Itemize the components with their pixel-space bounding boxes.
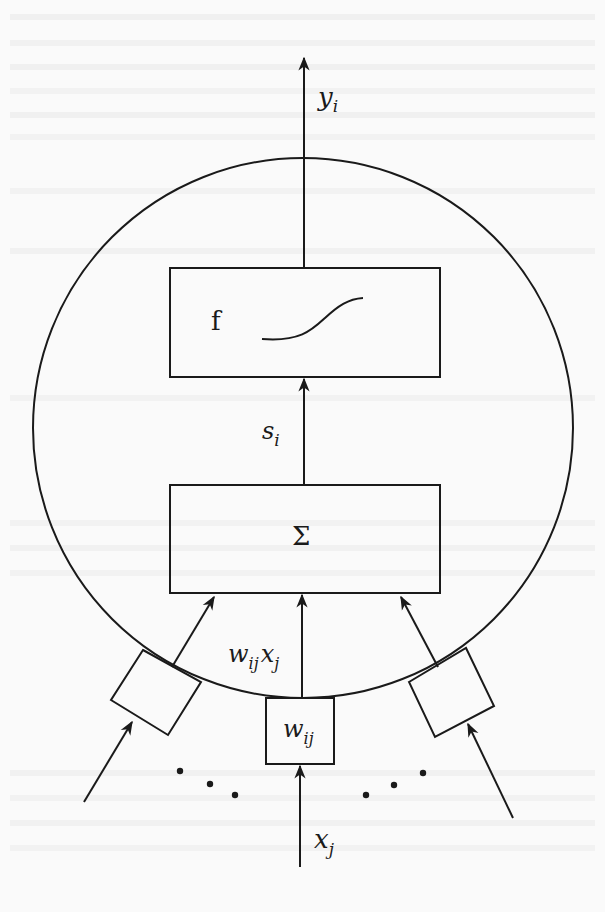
ellipsis-dot: [177, 768, 183, 774]
ellipsis-dot: [207, 781, 213, 787]
summation-label: Σ: [292, 521, 310, 551]
neuron-diagram: yi f si Σ wijxj wij xj: [0, 0, 605, 912]
bleed-through-texture: [0, 0, 605, 912]
ellipsis-dot: [420, 770, 426, 776]
ellipsis-dot: [391, 782, 397, 788]
ellipsis-dot: [363, 792, 369, 798]
ellipsis-dot: [232, 792, 238, 798]
